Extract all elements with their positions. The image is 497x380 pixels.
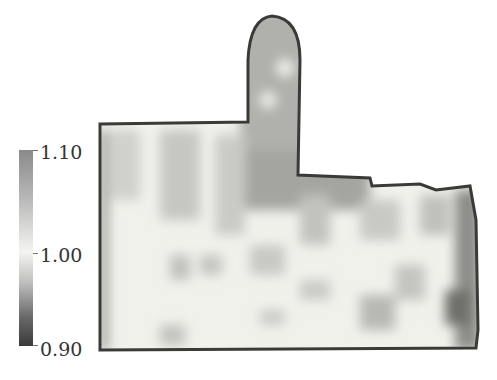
- heatmap-plot: [0, 0, 497, 380]
